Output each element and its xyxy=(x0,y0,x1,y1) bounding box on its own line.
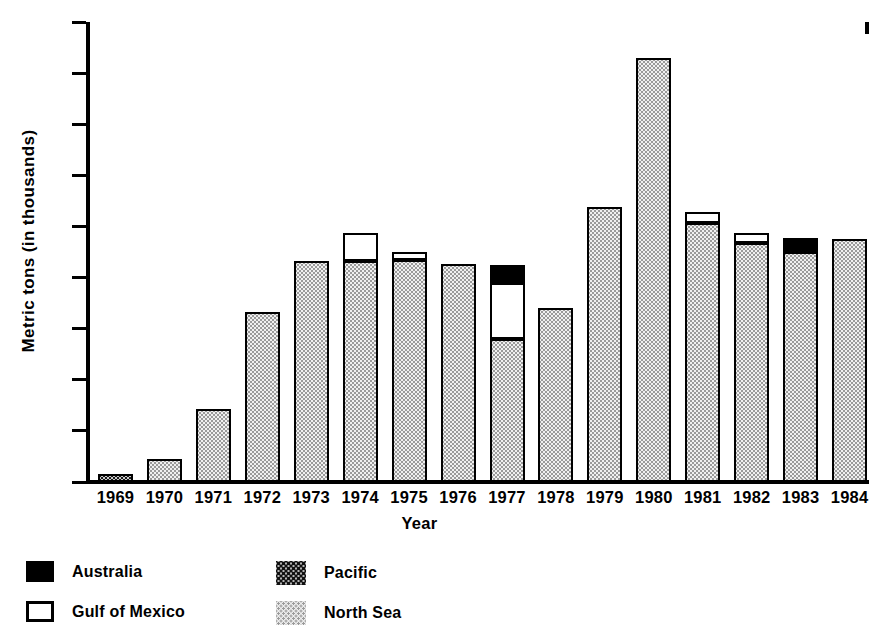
y-tick xyxy=(72,276,86,279)
x-tick-label-1980: 1980 xyxy=(628,488,680,507)
legend-item-northsea: North Sea xyxy=(276,601,401,625)
y-tick xyxy=(72,481,86,484)
bar-1978[interactable] xyxy=(538,308,573,482)
bar-segment-pacific xyxy=(98,474,133,482)
bar-1984[interactable] xyxy=(832,239,867,482)
y-tick xyxy=(72,327,86,330)
y-tick xyxy=(72,225,86,228)
bar-1977[interactable] xyxy=(490,265,525,482)
bar-segment-northsea xyxy=(832,239,867,482)
bar-segment-gulf xyxy=(490,283,525,339)
bar-segment-northsea xyxy=(196,409,231,482)
bar-segment-northsea xyxy=(294,261,329,482)
bar-1975[interactable] xyxy=(392,252,427,482)
legend-label-gulf: Gulf of Mexico xyxy=(72,603,185,621)
bar-1979[interactable] xyxy=(587,207,622,482)
x-tick-label-1974: 1974 xyxy=(334,488,386,507)
x-tick-label-1977: 1977 xyxy=(481,488,533,507)
x-tick-label-1970: 1970 xyxy=(138,488,190,507)
bar-segment-northsea xyxy=(783,252,818,482)
bar-segment-gulf xyxy=(734,233,769,243)
legend-item-pacific: Pacific xyxy=(276,561,377,585)
bar-1976[interactable] xyxy=(441,264,476,483)
x-tick-label-1973: 1973 xyxy=(285,488,337,507)
bar-segment-northsea xyxy=(343,261,378,482)
y-tick xyxy=(72,174,86,177)
x-tick-label-1972: 1972 xyxy=(236,488,288,507)
x-tick-label-1969: 1969 xyxy=(90,488,142,507)
x-tick-label-1976: 1976 xyxy=(432,488,484,507)
x-tick-label-1978: 1978 xyxy=(530,488,582,507)
legend-swatch-pacific xyxy=(276,561,306,585)
bar-segment-northsea xyxy=(245,312,280,482)
bar-segment-northsea xyxy=(490,339,525,482)
bar-segment-australia xyxy=(783,238,818,252)
legend-swatch-australia xyxy=(26,561,54,582)
x-tick-label-1971: 1971 xyxy=(187,488,239,507)
bar-segment-northsea xyxy=(587,207,622,482)
x-axis-title: Year xyxy=(0,514,883,533)
bar-1972[interactable] xyxy=(245,312,280,482)
x-tick-label-1982: 1982 xyxy=(726,488,778,507)
bar-1981[interactable] xyxy=(685,212,720,482)
bar-1983[interactable] xyxy=(783,238,818,482)
bar-1974[interactable] xyxy=(343,233,378,482)
bar-segment-northsea xyxy=(147,459,182,482)
chart-legend: AustraliaPacificGulf of MexicoNorth Sea xyxy=(26,561,526,631)
x-tick-label-1983: 1983 xyxy=(775,488,827,507)
bar-segment-northsea xyxy=(538,308,573,482)
legend-label-northsea: North Sea xyxy=(324,604,401,622)
bar-1969[interactable] xyxy=(98,474,133,482)
x-axis-title-text: Year xyxy=(401,514,437,532)
y-tick xyxy=(72,21,86,24)
bar-segment-northsea xyxy=(636,58,671,482)
y-tick xyxy=(72,72,86,75)
y-tick xyxy=(72,123,86,126)
bar-segment-northsea xyxy=(734,243,769,482)
legend-item-australia: Australia xyxy=(26,561,142,582)
bar-chart-figure: Metric tons (in thousands) 0204060801001… xyxy=(0,0,883,641)
y-tick xyxy=(72,378,86,381)
legend-label-pacific: Pacific xyxy=(324,564,377,582)
legend-item-gulf: Gulf of Mexico xyxy=(26,601,185,622)
bar-segment-australia xyxy=(490,265,525,283)
bar-segment-gulf xyxy=(343,233,378,261)
x-tick-label-1981: 1981 xyxy=(677,488,729,507)
bar-segment-northsea xyxy=(685,223,720,482)
plot-area: 020406080100120140160180 xyxy=(86,22,869,482)
x-tick-label-1984: 1984 xyxy=(824,488,876,507)
x-tick-label-1979: 1979 xyxy=(579,488,631,507)
y-axis-title: Metric tons (in thousands) xyxy=(17,31,41,451)
bar-1980[interactable] xyxy=(636,58,671,482)
bar-1973[interactable] xyxy=(294,261,329,482)
bar-1970[interactable] xyxy=(147,459,182,482)
bar-1982[interactable] xyxy=(734,233,769,482)
bar-segment-northsea xyxy=(392,260,427,482)
legend-swatch-gulf xyxy=(26,601,54,622)
bar-segment-northsea xyxy=(441,264,476,483)
bar-1971[interactable] xyxy=(196,409,231,482)
legend-swatch-northsea xyxy=(276,601,306,625)
x-tick-label-1975: 1975 xyxy=(383,488,435,507)
bar-segment-gulf xyxy=(685,212,720,222)
legend-label-australia: Australia xyxy=(72,563,142,581)
bar-segment-gulf xyxy=(392,252,427,260)
y-tick xyxy=(72,429,86,432)
